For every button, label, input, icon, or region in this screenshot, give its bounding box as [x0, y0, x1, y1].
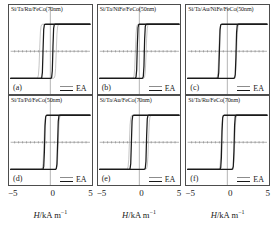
panel-a-letter: (a) — [13, 83, 22, 93]
legend-thick-line-icon — [149, 181, 162, 182]
x-axis-ticks-col3: −5 0 5 — [185, 188, 270, 200]
panel-e-legend-label: EA — [165, 175, 176, 184]
panel-f-stack-label: Si/Ta/Ru/FeCo(70nm) — [188, 96, 240, 104]
panel-a-plot — [9, 5, 92, 94]
legend-thin-line-icon — [149, 86, 162, 87]
panel-c-plot — [186, 5, 269, 94]
x-tick-max: 5 — [177, 188, 182, 199]
legend-thick-line-icon — [60, 90, 73, 91]
x-axis-label-col2: H/kA m−1 — [97, 208, 182, 224]
legend-thin-line-icon — [237, 86, 250, 87]
panel-c-legend: EA — [237, 84, 264, 93]
panel-a-stack-label: Si/Ta/Ru/FeCo(70nm) — [11, 5, 63, 13]
x-axis-label-col1: H/kA m−1 — [8, 208, 93, 224]
panel-b-legend: EA — [149, 84, 176, 93]
panel-a: Si/Ta/Ru/FeCo(70nm) (a) EA — [8, 4, 93, 95]
x-axis-ticks-col2: −5 0 5 — [97, 188, 182, 200]
x-tick-mid: 0 — [139, 188, 144, 199]
panel-c-stack-label: Si/Ta/Au/NiFe/FeCo(50nm) — [188, 5, 253, 13]
legend-thick-line-icon — [60, 181, 73, 182]
panel-d: Si/Ta/Pd/FeCo(50nm) (d) EA — [8, 95, 93, 186]
panel-e-legend: EA — [149, 175, 176, 184]
x-axis-tick-row: −5 0 5 −5 0 5 −5 0 5 — [8, 188, 270, 200]
x-axis-label-col3: H/kA m−1 — [185, 208, 270, 224]
panel-d-plot — [9, 96, 92, 185]
panel-e: Si/Ta/Au/FeCo(70nm) (e) EA — [97, 95, 182, 186]
panel-grid: Si/Ta/Ru/FeCo(70nm) (a) EA Si/Ta/NiFe/Fe… — [8, 4, 270, 186]
panel-f-letter: (f) — [190, 174, 198, 184]
panel-f-legend: EA — [237, 175, 264, 184]
legend-thin-line-icon — [60, 177, 73, 178]
x-tick-min: −5 — [8, 188, 18, 199]
legend-thick-line-icon — [149, 90, 162, 91]
legend-thin-line-icon — [237, 177, 250, 178]
x-tick-max: 5 — [265, 188, 270, 199]
x-axis-ticks-col1: −5 0 5 — [8, 188, 93, 200]
panel-e-plot — [98, 96, 181, 185]
panel-c-letter: (c) — [190, 83, 199, 93]
x-tick-max: 5 — [88, 188, 93, 199]
x-axis-exponent: −1 — [61, 209, 67, 215]
legend-line-swatches — [149, 177, 162, 182]
panel-e-letter: (e) — [102, 174, 111, 184]
legend-line-swatches — [60, 86, 73, 91]
panel-b-stack-label: Si/Ta/NiFe/FeCo(50nm) — [100, 5, 156, 13]
panel-b-letter: (b) — [102, 83, 111, 93]
panel-f-legend-label: EA — [253, 175, 264, 184]
legend-line-swatches — [237, 86, 250, 91]
panel-b: Si/Ta/NiFe/FeCo(50nm) (b) EA — [97, 4, 182, 95]
panel-c-legend-label: EA — [253, 84, 264, 93]
legend-thin-line-icon — [60, 86, 73, 87]
panel-d-legend: EA — [60, 175, 87, 184]
panel-b-plot — [98, 5, 181, 94]
panel-c: Si/Ta/Au/NiFe/FeCo(50nm) (c) EA — [185, 4, 270, 95]
x-axis-unit: /kA m — [128, 210, 149, 220]
panel-a-legend-label: EA — [76, 84, 87, 93]
panel-d-legend-label: EA — [76, 175, 87, 184]
panel-d-letter: (d) — [13, 174, 22, 184]
panel-d-stack-label: Si/Ta/Pd/FeCo(50nm) — [11, 96, 62, 104]
panel-f-plot — [186, 96, 269, 185]
panel-f: Si/Ta/Ru/FeCo(70nm) (f) EA — [185, 95, 270, 186]
x-axis-label-row: H/kA m−1 H/kA m−1 H/kA m−1 — [8, 208, 270, 224]
legend-thick-line-icon — [237, 181, 250, 182]
x-axis-unit: /kA m — [40, 210, 61, 220]
x-tick-mid: 0 — [228, 188, 233, 199]
legend-thick-line-icon — [237, 90, 250, 91]
panel-e-stack-label: Si/Ta/Au/FeCo(70nm) — [100, 96, 152, 104]
x-tick-mid: 0 — [51, 188, 56, 199]
legend-line-swatches — [60, 177, 73, 182]
x-axis-exponent: −1 — [150, 209, 156, 215]
x-axis-unit: /kA m — [217, 210, 238, 220]
legend-line-swatches — [149, 86, 162, 91]
x-axis-exponent: −1 — [238, 209, 244, 215]
hysteresis-loop-figure: Si/Ta/Ru/FeCo(70nm) (a) EA Si/Ta/NiFe/Fe… — [0, 0, 278, 234]
panel-b-legend-label: EA — [165, 84, 176, 93]
legend-thin-line-icon — [149, 177, 162, 178]
x-tick-min: −5 — [185, 188, 195, 199]
x-tick-min: −5 — [97, 188, 107, 199]
legend-line-swatches — [237, 177, 250, 182]
panel-a-legend: EA — [60, 84, 87, 93]
